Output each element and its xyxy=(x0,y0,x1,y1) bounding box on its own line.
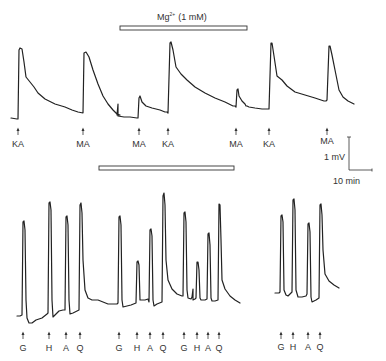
stimulus-marker-q: Q xyxy=(76,332,83,354)
svg-text:G: G xyxy=(19,343,26,353)
svg-text:H: H xyxy=(290,342,297,352)
stimulus-marker-ma: MA xyxy=(132,128,146,150)
svg-text:Q: Q xyxy=(215,343,222,353)
stimulus-marker-g: G xyxy=(180,332,187,354)
stimulus-marker-h: H xyxy=(290,332,297,353)
upper-trace xyxy=(11,42,354,119)
stimulus-marker-q: Q xyxy=(316,332,323,353)
stimulus-marker-g: G xyxy=(277,332,284,353)
upper-stimulus-markers: KA MA MA KA MA KA MA xyxy=(12,128,334,150)
svg-text:H: H xyxy=(134,343,141,353)
stimulus-marker-g: G xyxy=(115,332,122,354)
stimulus-marker-a: A xyxy=(205,332,211,354)
stimulus-marker-q: Q xyxy=(159,332,166,354)
figure-canvas: Mg2+(1 mM) KA MA MA KA MA KA xyxy=(0,0,386,361)
stimulus-marker-ka: KA xyxy=(162,128,174,150)
svg-text:H: H xyxy=(46,343,53,353)
lower-trace-1 xyxy=(17,193,240,323)
svg-text:A: A xyxy=(147,343,153,353)
svg-text:MA: MA xyxy=(320,136,334,146)
stimulus-marker-ka: KA xyxy=(263,128,275,150)
svg-text:H: H xyxy=(194,343,201,353)
scale-voltage-label: 1 mV xyxy=(324,152,345,162)
stimulus-marker-h: H xyxy=(194,332,201,354)
stimulus-marker-ma: MA xyxy=(76,128,90,150)
svg-text:KA: KA xyxy=(12,139,24,149)
stimulus-marker-q: Q xyxy=(215,332,222,354)
svg-text:MA: MA xyxy=(132,139,146,149)
svg-text:G: G xyxy=(277,342,284,352)
svg-text:G: G xyxy=(180,343,187,353)
stimulus-marker-a: A xyxy=(305,332,311,353)
stimulus-marker-a: A xyxy=(147,332,153,354)
svg-text:Q: Q xyxy=(76,343,83,353)
stimulus-marker-h: H xyxy=(46,332,53,354)
svg-text:MA: MA xyxy=(229,139,243,149)
mg-treatment-label: Mg2+(1 mM) xyxy=(157,11,207,22)
lower-stimulus-markers: G H A Q G H A Q G H A Q G H A Q xyxy=(19,332,323,354)
svg-text:A: A xyxy=(305,342,311,352)
mg-application-bar-lower xyxy=(99,166,234,170)
svg-text:Q: Q xyxy=(159,343,166,353)
svg-text:A: A xyxy=(205,343,211,353)
mg-application-bar xyxy=(120,26,247,30)
scale-time-label: 10 min xyxy=(333,176,360,186)
svg-text:KA: KA xyxy=(263,139,275,149)
svg-text:KA: KA xyxy=(162,139,174,149)
stimulus-marker-ma: MA xyxy=(320,128,334,147)
stimulus-marker-ma: MA xyxy=(229,128,243,150)
lower-trace-2 xyxy=(275,199,339,302)
stimulus-marker-ka: KA xyxy=(12,128,24,150)
stimulus-marker-h: H xyxy=(134,332,141,354)
stimulus-marker-a: A xyxy=(63,332,69,354)
svg-text:Q: Q xyxy=(316,342,323,352)
stimulus-marker-g: G xyxy=(19,332,26,354)
svg-text:A: A xyxy=(63,343,69,353)
svg-text:G: G xyxy=(115,343,122,353)
svg-text:MA: MA xyxy=(76,139,90,149)
